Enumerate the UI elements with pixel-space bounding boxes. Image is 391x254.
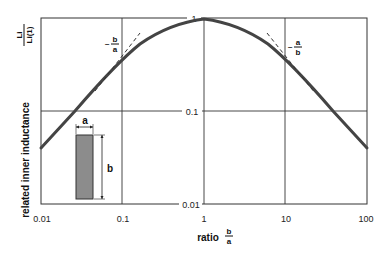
svg-text:a: a	[227, 237, 232, 246]
svg-text:~: ~	[288, 43, 293, 52]
inset-label-a: a	[82, 115, 88, 126]
y-tick-0.1: 0.1	[186, 107, 199, 117]
x-tick-100: 100	[358, 214, 373, 224]
annotation-b-over-a: ~ b a	[105, 35, 119, 54]
svg-text:Li: Li	[15, 31, 24, 38]
svg-text:ratio: ratio	[197, 232, 219, 243]
svg-text:Li(1): Li(1)	[25, 26, 34, 43]
y-axis-title: related inner inductance Li Li(1)	[15, 24, 34, 218]
inset-label-b: b	[107, 163, 113, 174]
conductor-rectangle	[76, 135, 93, 199]
annotation-a-over-b: ~ a b	[288, 38, 302, 57]
svg-text:a: a	[296, 38, 301, 47]
svg-text:~: ~	[105, 40, 110, 49]
svg-text:related inner inductance: related inner inductance	[20, 102, 31, 218]
x-tick-10: 10	[281, 214, 291, 224]
x-tick-1: 1	[201, 214, 206, 224]
svg-text:b: b	[227, 227, 232, 236]
x-tick-0.1: 0.1	[117, 214, 130, 224]
conductor-cross-section-inset: a b	[76, 115, 113, 199]
x-tick-0.01: 0.01	[33, 214, 51, 224]
asymptote-right	[267, 33, 315, 93]
svg-text:a: a	[113, 45, 118, 54]
svg-text:b: b	[113, 35, 118, 44]
svg-text:b: b	[296, 48, 301, 57]
y-tick-0.01: 0.01	[182, 200, 200, 210]
chart: 1 0.1 0.01 0.01 0.1 1 10 100 ~ b a ~ a b…	[0, 0, 391, 254]
x-axis-title: ratio b a	[197, 227, 233, 246]
